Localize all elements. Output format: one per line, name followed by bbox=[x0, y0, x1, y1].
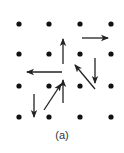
grid-dot-r3-c0 bbox=[16, 114, 21, 119]
grid-dot-r0-c1 bbox=[46, 21, 51, 26]
grid-dot-r2-c3 bbox=[108, 83, 113, 88]
grid-dot-r1-c2 bbox=[77, 51, 82, 56]
grid-dot-r2-c2 bbox=[77, 83, 82, 88]
figure-caption: (a) bbox=[0, 129, 124, 141]
grid-dot-r3-c3 bbox=[108, 114, 113, 119]
grid-dot-r1-c3 bbox=[108, 51, 113, 56]
grid-dot-r3-c1 bbox=[46, 114, 51, 119]
grid-dot-r2-c0 bbox=[16, 83, 21, 88]
grid-dot-r3-c2 bbox=[77, 114, 82, 119]
dot-grid bbox=[16, 21, 113, 119]
grid-dot-r2-c1 bbox=[46, 83, 51, 88]
grid-dot-r1-c0 bbox=[16, 51, 21, 56]
arrow-group bbox=[27, 38, 108, 117]
grid-dot-r0-c3 bbox=[108, 21, 113, 26]
grid-dot-r1-c1 bbox=[46, 51, 51, 56]
grid-dot-r0-c0 bbox=[16, 21, 21, 26]
arrow-up-right-diagonal-icon bbox=[44, 84, 61, 110]
grid-dot-r0-c2 bbox=[77, 21, 82, 26]
